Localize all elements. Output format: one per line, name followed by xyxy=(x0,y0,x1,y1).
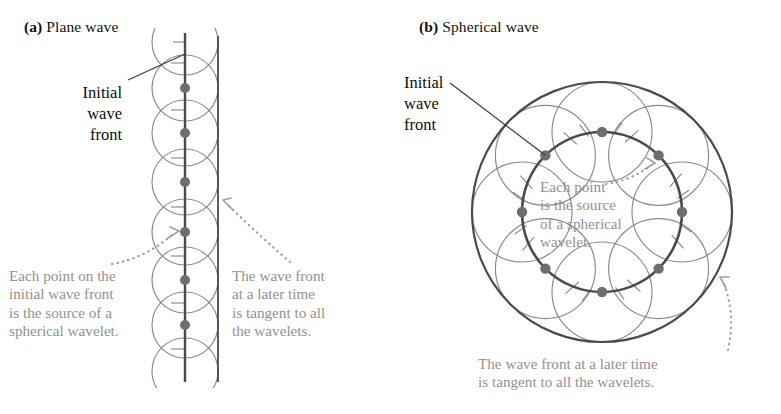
plane-wavelet xyxy=(152,199,218,265)
source-point-dot xyxy=(597,127,607,137)
plane-wavelet xyxy=(152,55,218,121)
source-point-dot xyxy=(180,320,190,330)
plane-wavelet xyxy=(152,9,218,75)
plane-wavelet xyxy=(152,149,218,215)
spherical-wavelet xyxy=(552,82,652,182)
plane-wavelet xyxy=(152,100,218,166)
plane-wavelet xyxy=(152,338,218,404)
source-point-dot xyxy=(677,207,687,217)
spherical-wavelet xyxy=(632,162,732,262)
panel-b-tangent-note: The wave front at a later time is tangen… xyxy=(478,355,658,392)
panel-b-label: (b) Spherical wave xyxy=(419,18,539,36)
source-point-dot xyxy=(653,150,663,160)
plane-wavelet-ticks xyxy=(171,42,186,349)
panel-b-tag: (b) xyxy=(419,18,438,35)
plane-wavelet xyxy=(152,247,218,313)
source-point-dot xyxy=(180,128,190,138)
panel-b-tangent-arrow xyxy=(720,277,731,350)
panel-b-initial-wave-front-label: Initial wave front xyxy=(404,72,443,135)
source-point-dot xyxy=(653,263,663,273)
spherical-wavelet xyxy=(609,105,709,205)
panel-a-initial-wave-front-label: Initial wave front xyxy=(0,82,122,145)
panel-b-leader-line xyxy=(450,83,545,155)
source-point-dot xyxy=(180,227,190,237)
panel-a-tangent-arrow xyxy=(223,198,290,262)
panel-a-source-arrow xyxy=(112,227,179,264)
panel-b-title: Spherical wave xyxy=(442,18,539,35)
panel-b-source-note: Each point is the source of a spherical … xyxy=(540,178,622,252)
source-point-dot xyxy=(597,287,607,297)
plane-wavelet xyxy=(152,292,218,358)
panel-a-title: Plane wave xyxy=(46,18,118,35)
panel-a-tag: (a) xyxy=(24,18,42,35)
huygens-principle-figure: (a) Plane wave (b) Spherical wave Initia… xyxy=(0,0,781,414)
plane-source-points xyxy=(180,83,190,330)
diagram-canvas xyxy=(0,0,781,414)
source-point-dot xyxy=(180,83,190,93)
spherical-wavelet xyxy=(552,242,652,342)
source-point-dot xyxy=(540,263,550,273)
panel-a-label: (a) Plane wave xyxy=(24,18,118,36)
plane-wave-drawing xyxy=(112,9,290,404)
panel-a-source-note: Each point on the initial wave front is … xyxy=(9,267,119,341)
source-point-dot xyxy=(180,275,190,285)
panel-a-leader-line xyxy=(128,54,185,80)
source-point-dot xyxy=(180,177,190,187)
plane-wavelets xyxy=(152,9,218,404)
source-point-dot xyxy=(517,207,527,217)
spherical-wavelet xyxy=(609,219,709,319)
source-point-dot xyxy=(540,150,550,160)
panel-a-tangent-note: The wave front at a later time is tangen… xyxy=(232,267,325,341)
